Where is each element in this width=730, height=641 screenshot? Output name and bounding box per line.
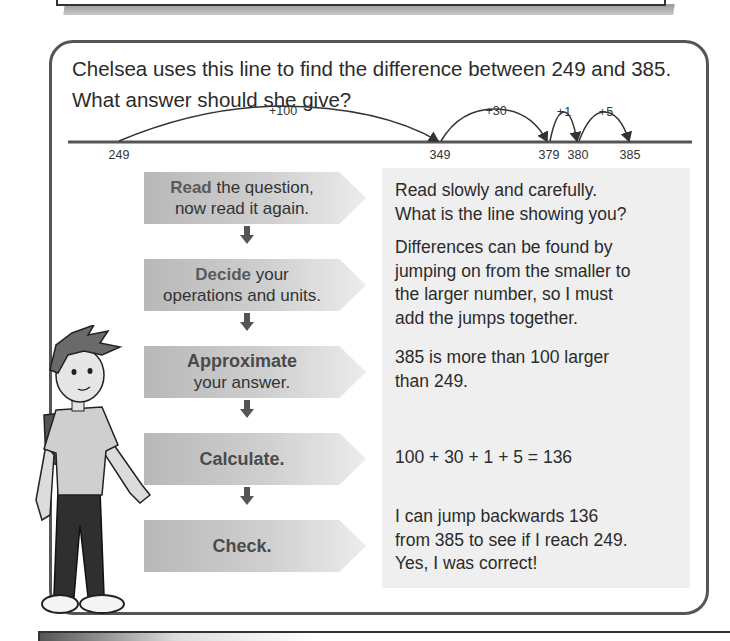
step-keyword: Decide — [195, 265, 251, 284]
jump-label: +30 — [485, 104, 506, 118]
down-arrow-icon — [240, 226, 254, 244]
boy-character-illustration — [22, 325, 152, 625]
explanation-calculate: 100 + 30 + 1 + 5 = 136 — [395, 446, 572, 470]
down-arrow-icon — [240, 313, 254, 331]
explanation-read: Read slowly and carefully. What is the l… — [395, 179, 627, 226]
point-label: 385 — [620, 148, 641, 162]
top-box — [56, 0, 666, 6]
down-arrow-icon — [240, 400, 254, 418]
step-keyword: Check. — [212, 536, 271, 557]
point-label: 380 — [568, 148, 589, 162]
point-label: 379 — [539, 148, 560, 162]
point-label: 249 — [109, 148, 130, 162]
step-keyword: Approximate — [187, 351, 297, 372]
explanation-decide: Differences can be found by jumping on f… — [395, 236, 630, 330]
jump-label: +100 — [269, 104, 297, 118]
step-read: Read the question, now read it again. — [144, 172, 366, 224]
next-section-box — [38, 631, 730, 641]
number-line: +100 +30 +1 +5 249 349 379 380 385 — [0, 95, 728, 170]
step-calculate: Calculate. — [144, 433, 366, 485]
step-check: Check. — [144, 520, 366, 572]
explanation-check: I can jump backwards 136 from 385 to see… — [395, 505, 628, 576]
step-keyword: Calculate. — [199, 449, 284, 470]
jump-label: +5 — [599, 105, 613, 119]
jump-label: +1 — [557, 105, 571, 119]
step-keyword: Read — [170, 178, 212, 197]
down-arrow-icon — [240, 487, 254, 505]
question-line-1: Chelsea uses this line to find the diffe… — [72, 53, 671, 84]
step-approximate: Approximate your answer. — [144, 346, 366, 398]
explanation-approximate: 385 is more than 100 larger than 249. — [395, 346, 609, 393]
point-label: 349 — [430, 148, 451, 162]
step-decide: Decide your operations and units. — [144, 259, 366, 311]
